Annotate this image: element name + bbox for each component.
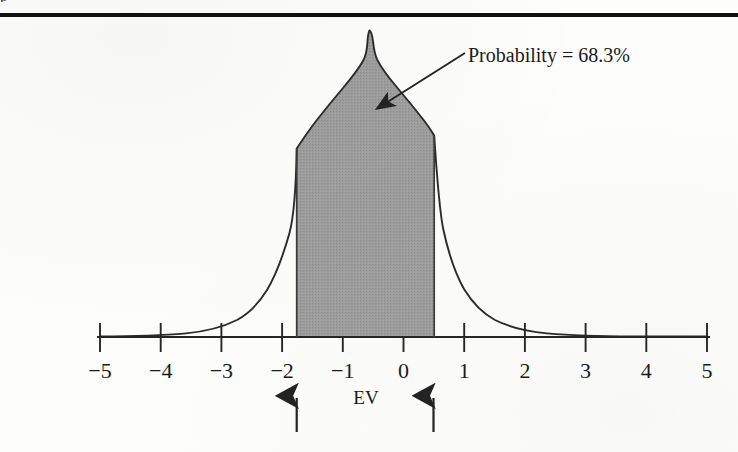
x-tick-label-1: 1 <box>459 358 470 384</box>
expected-value-label: EV <box>353 387 378 409</box>
figure-page: p <box>0 0 738 452</box>
normal-distribution-chart <box>0 0 738 452</box>
x-tick-label--1: −1 <box>331 358 354 384</box>
x-tick-label-0: 0 <box>398 358 409 384</box>
shaded-probability-region <box>297 30 435 337</box>
x-tick-label--2: −2 <box>270 358 293 384</box>
x-tick-label--5: −5 <box>88 358 111 384</box>
x-tick-label-5: 5 <box>702 358 713 384</box>
x-tick-label--3: −3 <box>210 358 233 384</box>
x-tick-label--4: −4 <box>149 358 172 384</box>
probability-annotation-label: Probability = 68.3% <box>468 44 630 67</box>
x-tick-label-3: 3 <box>580 358 591 384</box>
x-tick-label-2: 2 <box>519 358 530 384</box>
x-tick-label-4: 4 <box>641 358 652 384</box>
